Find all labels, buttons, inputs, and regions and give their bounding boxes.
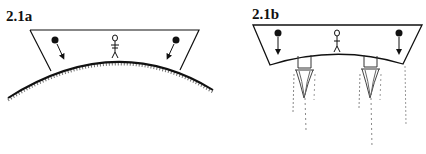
person-icon [111,35,119,58]
fall-arrow-icon [57,44,63,57]
person-icon [334,30,340,52]
planet-surface [8,62,213,98]
ball-icon [396,30,403,37]
fall-arrow-icon [168,44,174,57]
figure-2-1b [253,25,422,148]
ball-icon [173,37,180,44]
ball-icon [52,37,59,44]
rocket-engine-icon [293,55,315,130]
ball-icon [275,30,282,37]
diagram-canvas [0,0,426,154]
rocket-engine-icon [359,55,406,148]
figure-2-1a [8,30,213,100]
